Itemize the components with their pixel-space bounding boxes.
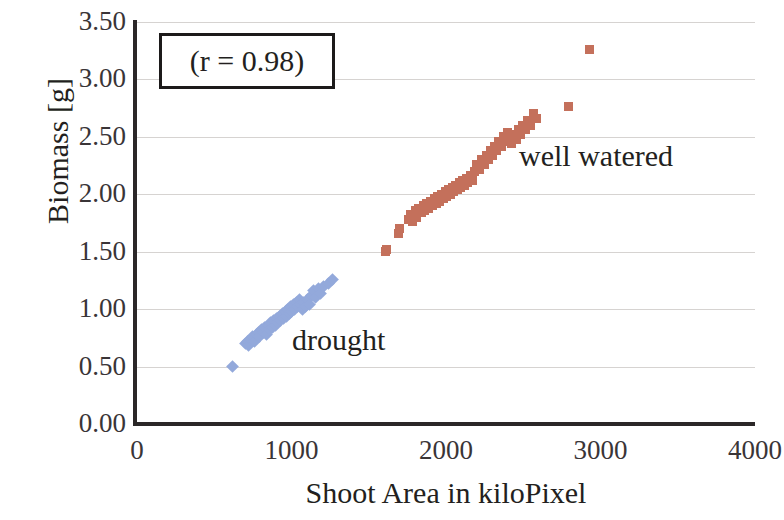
data-point-well [532,114,541,123]
x-tick-label: 4000 [695,437,784,464]
y-tick-label: 2.00 [38,180,126,207]
y-tick-label: 3.00 [38,65,126,92]
y-tick-label: 1.00 [38,295,126,322]
y-tick-label: 1.50 [38,238,126,265]
data-point-well [585,45,594,54]
x-axis-title: Shoot Area in kiloPixel [137,478,755,508]
x-tick-label: 0 [77,437,197,464]
x-tick-label: 1000 [232,437,352,464]
x-tick-label: 3000 [541,437,661,464]
data-point-drought [226,360,239,373]
x-tick-label: 2000 [386,437,506,464]
correlation-annotation-box: (r = 0.98) [159,33,335,89]
y-tick-label: 2.50 [38,123,126,150]
y-tick-label: 3.50 [38,8,126,35]
scatter-chart-figure: Biomass [g] Shoot Area in kiloPixel 0.00… [0,0,784,520]
y-tick-label: 0.00 [38,410,126,437]
series-label-well-watered: well watered [519,141,673,171]
data-point-well [564,102,573,111]
data-point-well [468,176,477,185]
data-point-well [382,245,391,254]
y-tick-label: 0.50 [38,353,126,380]
data-point-well [395,224,404,233]
series-label-drought: drought [292,325,385,355]
